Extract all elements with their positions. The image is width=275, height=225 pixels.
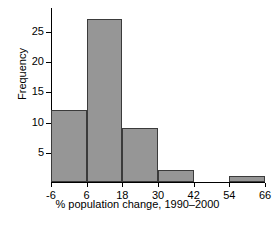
y-tick: 25 [46, 32, 51, 33]
histogram-bar [158, 170, 194, 182]
histogram-bar [229, 176, 265, 182]
x-tick [87, 183, 88, 187]
y-tick: 10 [46, 123, 51, 124]
y-tick-label: 25 [32, 25, 44, 37]
plot-area: 510152025 -661830425466 [51, 8, 265, 183]
x-tick [194, 183, 195, 187]
y-tick: 5 [46, 153, 51, 154]
histogram-bar [51, 110, 87, 182]
x-tick [158, 183, 159, 187]
x-axis-label: % population change, 1990–2000 [0, 198, 275, 210]
histogram-bar [122, 128, 158, 182]
y-tick-label: 15 [32, 85, 44, 97]
x-tick [265, 183, 266, 187]
y-tick: 20 [46, 62, 51, 63]
x-tick [229, 183, 230, 187]
y-tick-label: 20 [32, 55, 44, 67]
y-tick: 15 [46, 92, 51, 93]
x-tick [51, 183, 52, 187]
histogram-bar [87, 19, 123, 182]
histogram-figure: Frequency 510152025 -661830425466 % popu… [0, 0, 275, 225]
y-tick-label: 10 [32, 116, 44, 128]
y-tick-label: 5 [38, 146, 44, 158]
y-axis-label: Frequency [16, 14, 28, 134]
x-tick [122, 183, 123, 187]
